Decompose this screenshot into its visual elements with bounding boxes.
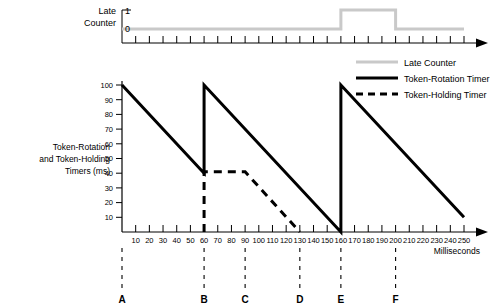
series-token-rotation-timer <box>122 85 464 232</box>
timers-y-tick-label: 70 <box>105 125 113 134</box>
timers-x-tick-label: 130 <box>294 236 307 245</box>
timers-x-tick-label: 220 <box>417 236 430 245</box>
timers-axis-caption-line3: Timers (ms) <box>65 166 110 176</box>
timers-x-tick-label: 120 <box>280 236 293 245</box>
timers-y-tick-label: 90 <box>105 96 113 105</box>
timers-y-tick-label: 100 <box>100 81 113 90</box>
timers-axis-caption-line2: and Token-Holding <box>39 154 110 164</box>
timers-x-tick-label: 150 <box>321 236 334 245</box>
timers-x-tick-label: 90 <box>241 236 249 245</box>
timers-y-tick-label: 10 <box>105 213 113 222</box>
timers-x-tick-label: 200 <box>389 236 402 245</box>
timers-x-tick-label: 30 <box>159 236 167 245</box>
series-token-holding-timer <box>204 172 300 232</box>
legend-label-3: Token-Holding Timer <box>404 90 487 100</box>
legend <box>356 62 398 94</box>
legend-label-1: Late Counter <box>404 58 456 68</box>
timers-y-tick-label: 80 <box>105 110 113 119</box>
timers-x-tick-label: 190 <box>376 236 389 245</box>
timers-x-tick-label: 230 <box>430 236 443 245</box>
figure-canvas: LateCounter10Late CounterToken-Rotation … <box>0 0 501 307</box>
timers-x-tick-label: 110 <box>266 236 278 245</box>
timers-x-tick-label: 210 <box>403 236 416 245</box>
timers-x-tick-label: 10 <box>132 236 140 245</box>
timers-x-tick-label: 40 <box>173 236 181 245</box>
marker-label-F: F <box>393 294 399 305</box>
timing-diagram-figure: LateCounter10Late CounterToken-Rotation … <box>0 0 501 307</box>
timers-x-tick-label: 100 <box>253 236 266 245</box>
timers-x-tick-label: 240 <box>444 236 457 245</box>
late-counter-tick-1: 1 <box>125 6 130 16</box>
timers-x-tick-label: 60 <box>200 236 208 245</box>
marker-label-A: A <box>118 294 125 305</box>
late-counter-waveform <box>122 10 464 29</box>
timers-panel <box>116 81 488 237</box>
late-counter-label-line1: Late <box>98 6 116 16</box>
late-counter-axis-arrow <box>476 39 488 48</box>
timers-x-tick-label: 160 <box>335 236 348 245</box>
timers-x-tick-label: 140 <box>307 236 320 245</box>
timers-y-tick-label: 30 <box>105 184 113 193</box>
late-counter-tick-0: 0 <box>125 24 130 34</box>
timers-x-tick-label: 20 <box>145 236 153 245</box>
timers-x-tick-label: 180 <box>362 236 375 245</box>
timers-axis-caption-line1: Token-Rotation <box>53 142 110 152</box>
marker-label-C: C <box>242 294 249 305</box>
timers-x-tick-label: 70 <box>214 236 222 245</box>
legend-label-2: Token-Rotation Timer <box>404 74 490 84</box>
timers-x-tick-label: 80 <box>227 236 235 245</box>
marker-label-B: B <box>200 294 207 305</box>
late-counter-panel <box>122 10 488 48</box>
marker-label-D: D <box>296 294 303 305</box>
timers-y-tick-label: 20 <box>105 198 113 207</box>
marker-label-E: E <box>338 294 345 305</box>
timers-axis-arrow <box>476 228 488 237</box>
markers <box>122 248 396 291</box>
timers-x-tick-label: 50 <box>186 236 194 245</box>
late-counter-label-line2: Counter <box>84 18 116 28</box>
timers-x-tick-label: 250 <box>458 236 471 245</box>
timers-x-tick-label: 170 <box>348 236 361 245</box>
x-axis-caption: Milliseconds <box>434 246 480 256</box>
